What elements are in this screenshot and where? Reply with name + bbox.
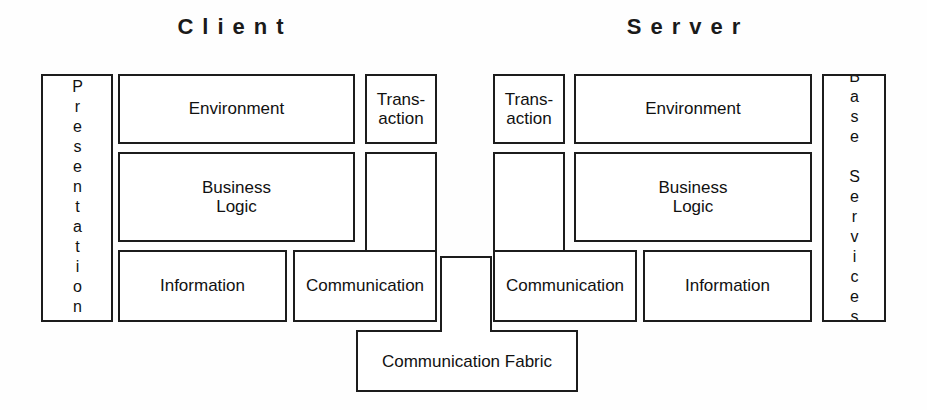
communication-fabric-group: Communication Fabric (0, 0, 927, 410)
architecture-diagram: Client Server Presentation Environment T… (0, 0, 927, 410)
fabric-joint-mask (442, 328, 490, 336)
communication-fabric-label: Communication Fabric (356, 352, 578, 372)
